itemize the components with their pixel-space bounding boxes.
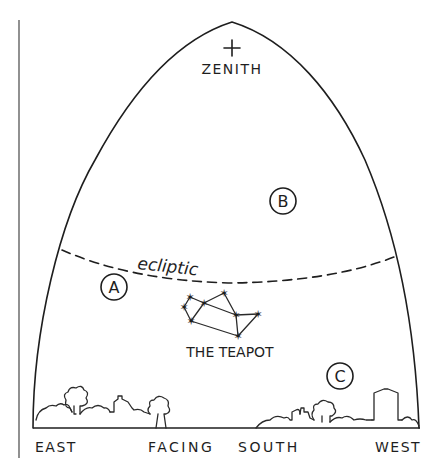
svg-text:✶: ✶: [253, 308, 262, 321]
svg-text:✶: ✶: [186, 315, 195, 328]
marker-a: A: [101, 274, 127, 300]
facing-label: FACING: [148, 439, 214, 455]
teapot-constellation: ✶ ✶ ✶ ✶ ✶ ✶ ✶ ✶ THE TEAPOT: [179, 287, 274, 360]
svg-text:A: A: [109, 278, 120, 297]
svg-text:✶: ✶: [231, 309, 240, 322]
svg-text:C: C: [334, 367, 345, 386]
svg-text:✶: ✶: [199, 297, 208, 310]
sky-dome-diagram: ZENITH ecliptic A B C: [0, 0, 441, 468]
ecliptic-label: ecliptic: [137, 253, 200, 279]
svg-text:✶: ✶: [219, 287, 228, 300]
svg-text:B: B: [278, 192, 289, 211]
marker-c: C: [327, 363, 353, 389]
svg-text:✶: ✶: [179, 301, 188, 314]
east-skyline: [36, 386, 170, 428]
west-label: WEST: [375, 439, 421, 455]
east-label: EAST: [35, 439, 77, 455]
zenith-label: ZENITH: [201, 61, 262, 77]
marker-b: B: [270, 188, 296, 214]
zenith-marker: ZENITH: [201, 40, 262, 77]
west-skyline: [256, 389, 419, 428]
teapot-label: THE TEAPOT: [185, 344, 274, 360]
south-label: SOUTH: [238, 439, 300, 455]
sky-dome-outline: [33, 22, 419, 428]
svg-text:✶: ✶: [233, 330, 242, 343]
